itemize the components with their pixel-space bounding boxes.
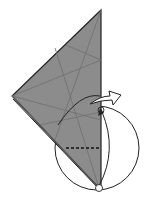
origami-diagram bbox=[0, 0, 149, 220]
paper-shape bbox=[12, 10, 101, 188]
origami-fold-diagram bbox=[0, 0, 149, 220]
pivot-circle-bottom bbox=[96, 185, 103, 192]
